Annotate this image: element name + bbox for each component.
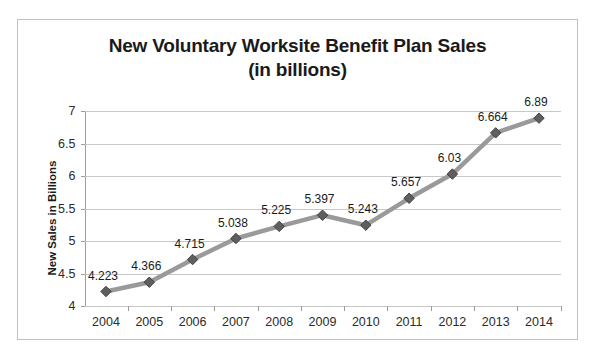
data-point-marker <box>101 286 111 296</box>
x-axis-tick-mark <box>258 306 259 311</box>
x-axis-tick-mark <box>431 306 432 311</box>
x-axis-tick-label: 2006 <box>179 315 207 329</box>
chart-frame: New Voluntary Worksite Benefit Plan Sale… <box>17 19 578 340</box>
x-axis-tick-label: 2005 <box>135 315 163 329</box>
data-point-label: 5.657 <box>391 175 421 189</box>
x-axis-tick-mark <box>474 306 475 311</box>
data-point-label: 5.243 <box>348 202 378 216</box>
x-axis-tick-mark <box>171 306 172 311</box>
x-axis-tick-label: 2012 <box>438 315 466 329</box>
data-point-label: 4.223 <box>88 269 118 283</box>
data-point-label: 6.664 <box>478 110 508 124</box>
data-point-label: 6.89 <box>524 95 547 109</box>
x-axis-tick-label: 2014 <box>525 315 553 329</box>
x-axis-tick-label: 2010 <box>352 315 380 329</box>
x-axis-tick-label: 2009 <box>309 315 337 329</box>
chart-title-main: New Voluntary Worksite Benefit Plan Sale… <box>109 35 487 56</box>
x-axis-tick-mark <box>561 306 562 311</box>
y-axis-tick-label: 4 <box>69 299 76 313</box>
x-axis-tick-label: 2004 <box>92 315 120 329</box>
data-point-label: 4.366 <box>131 259 161 273</box>
y-axis-tick-label: 6 <box>69 169 76 183</box>
y-axis-tick-label: 6.5 <box>58 137 75 151</box>
data-point-label: 5.397 <box>304 192 334 206</box>
x-axis-tick-label: 2008 <box>265 315 293 329</box>
data-point-label: 5.038 <box>218 216 248 230</box>
x-axis-tick-mark <box>517 306 518 311</box>
y-axis-tick-mark <box>81 306 85 307</box>
series-line-and-markers <box>85 111 561 306</box>
chart-title: New Voluntary Worksite Benefit Plan Sale… <box>18 34 577 82</box>
data-point-label: 5.225 <box>261 203 291 217</box>
y-axis-tick-label: 7 <box>69 104 76 118</box>
y-axis-tick-label: 5 <box>69 234 76 248</box>
y-axis-title: New Sales in Billions <box>46 148 58 288</box>
x-axis-tick-mark <box>128 306 129 311</box>
x-axis-tick-mark <box>344 306 345 311</box>
x-axis-tick-label: 2013 <box>482 315 510 329</box>
data-point-marker <box>317 210 327 220</box>
chart-subtitle: (in billions) <box>18 58 577 82</box>
data-point-marker <box>274 221 284 231</box>
data-point-label: 4.715 <box>175 237 205 251</box>
gridline <box>85 306 561 307</box>
data-point-marker <box>534 113 544 123</box>
x-axis-tick-mark <box>214 306 215 311</box>
plot-area: 44.555.566.57 20042005200620072008200920… <box>85 111 561 306</box>
x-axis-tick-label: 2011 <box>396 315 423 329</box>
data-point-label: 6.03 <box>438 151 461 165</box>
x-axis-tick-mark <box>301 306 302 311</box>
x-axis-tick-mark <box>387 306 388 311</box>
y-axis-tick-label: 4.5 <box>58 267 75 281</box>
x-axis-tick-label: 2007 <box>222 315 250 329</box>
y-axis-tick-label: 5.5 <box>58 202 75 216</box>
